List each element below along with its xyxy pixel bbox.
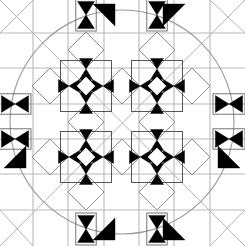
- geometric-pattern-svg: [0, 0, 245, 246]
- pattern-canvas: [0, 0, 245, 246]
